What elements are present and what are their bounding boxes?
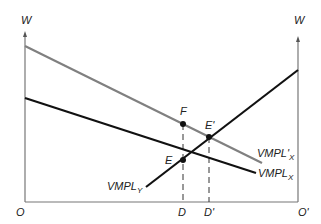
point-e	[180, 157, 186, 163]
marker-d-prime-label: D'	[204, 206, 215, 218]
point-f-label: F	[180, 105, 188, 117]
left-axis-arrow-icon	[23, 31, 27, 37]
vmpl-x-curve	[25, 98, 256, 173]
vmpl-x-prime-curve	[25, 46, 262, 163]
vmpl-y-label: VMPLY	[107, 180, 143, 195]
point-e-prime	[206, 134, 212, 140]
vmpl-x-prime-label: VMPL'X	[257, 147, 295, 162]
point-e-prime-label: E'	[205, 119, 215, 131]
specific-factors-diagram: W W O O' D D' F E' E VMPL'X VMPLX VMPLY	[0, 0, 321, 224]
right-axis-arrow-icon	[296, 36, 300, 42]
point-f	[180, 121, 186, 127]
origin-left-label: O	[16, 206, 25, 218]
right-axis-label: W	[294, 14, 306, 26]
marker-d-label: D	[178, 206, 186, 218]
left-axis-label: W	[21, 14, 33, 26]
origin-right-label: O'	[298, 206, 310, 218]
point-e-label: E	[165, 154, 173, 166]
vmpl-x-label: VMPLX	[258, 167, 294, 182]
